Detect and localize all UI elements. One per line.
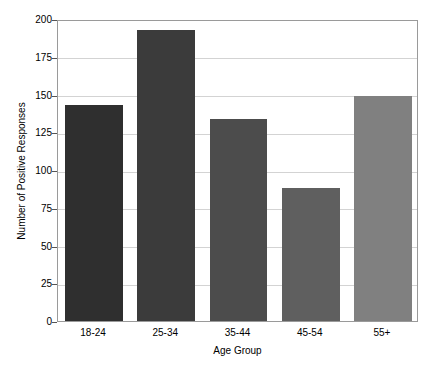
bar xyxy=(137,30,195,321)
x-axis-tick-label: 55+ xyxy=(346,326,418,339)
y-axis-tick-label: 125 xyxy=(16,127,52,139)
y-axis-tick-label: 100 xyxy=(16,165,52,177)
plot-area xyxy=(57,20,418,322)
x-axis-title: Age Group xyxy=(57,344,418,358)
y-axis-tick-label: 175 xyxy=(16,52,52,64)
bar xyxy=(354,96,412,321)
x-axis-tick-label: 45-54 xyxy=(274,326,346,339)
bar xyxy=(210,119,268,321)
y-axis-tick-label: 150 xyxy=(16,90,52,102)
x-axis-tick-label: 25-34 xyxy=(129,326,201,339)
x-axis-tick-label: 35-44 xyxy=(201,326,273,339)
y-axis-tick-label: 200 xyxy=(16,14,52,26)
bar xyxy=(282,188,340,321)
gridline xyxy=(58,58,417,59)
y-axis-tick-label: 50 xyxy=(16,241,52,253)
x-axis-tick-label: 18-24 xyxy=(57,326,129,339)
y-axis-tick-label: 25 xyxy=(16,278,52,290)
y-axis-tick-label: 0 xyxy=(16,316,52,328)
bar xyxy=(65,105,123,321)
bar-chart: Number of Positive Responses 02550751001… xyxy=(0,0,444,370)
y-axis-tick-mark xyxy=(52,322,57,323)
y-axis-tick-label: 75 xyxy=(16,203,52,215)
